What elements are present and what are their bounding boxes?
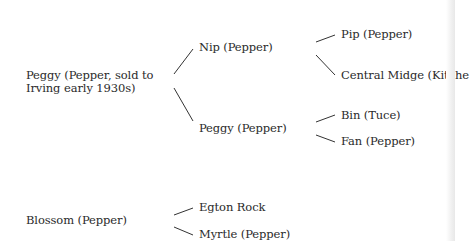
node-peggy-root: Peggy (Pepper, sold to Irving early 1930… bbox=[26, 69, 166, 95]
edge-peggy-fan bbox=[316, 135, 335, 142]
node-bin: Bin (Tuce) bbox=[341, 109, 401, 122]
edge-blossom-myrtle bbox=[174, 227, 193, 235]
node-egton-rock: Egton Rock bbox=[199, 201, 265, 214]
page-edge-shadow bbox=[446, 0, 455, 241]
node-myrtle: Myrtle (Pepper) bbox=[199, 228, 290, 241]
edge-peggy-bin bbox=[316, 115, 335, 122]
edge-peggy-nip bbox=[174, 49, 193, 74]
node-peggy-child: Peggy (Pepper) bbox=[199, 122, 287, 135]
edge-peggy-peggy bbox=[174, 88, 193, 121]
node-pip: Pip (Pepper) bbox=[341, 28, 412, 41]
edge-nip-pip bbox=[316, 35, 335, 42]
node-nip: Nip (Pepper) bbox=[199, 41, 273, 54]
edge-blossom-egton bbox=[174, 208, 193, 215]
edge-nip-central-midge bbox=[316, 55, 335, 75]
node-blossom: Blossom (Pepper) bbox=[26, 214, 127, 227]
node-fan: Fan (Pepper) bbox=[341, 135, 415, 148]
